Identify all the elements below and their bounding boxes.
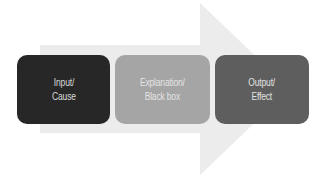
process-diagram: Input/ Cause Explanation/ Black box Outp… (0, 0, 321, 177)
step-label: Explanation/ Black box (140, 76, 185, 104)
step-output-effect: Output/ Effect (215, 55, 309, 124)
step-label: Output/ Effect (249, 76, 276, 104)
step-explanation-black-box: Explanation/ Black box (115, 55, 210, 124)
step-input-cause: Input/ Cause (17, 55, 110, 124)
step-label: Input/ Cause (52, 76, 76, 104)
